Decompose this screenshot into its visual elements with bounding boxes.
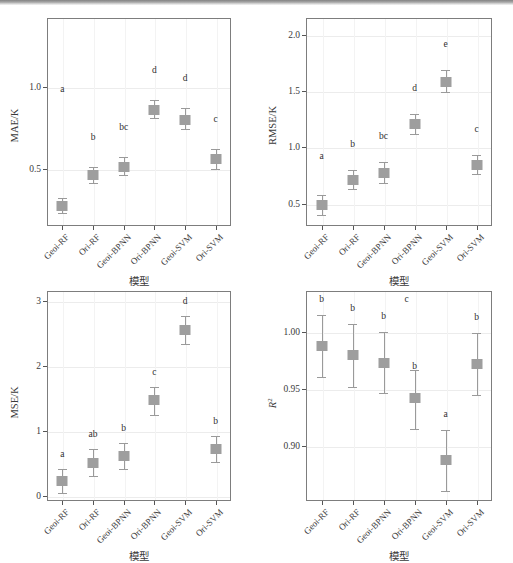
y-axis-tick-mark — [302, 389, 306, 390]
y-axis-tick-label: 1.0 — [7, 82, 41, 92]
error-bar-cap-upper — [379, 332, 388, 333]
error-bar-cap-upper — [119, 157, 128, 158]
y-axis-tick-mark — [302, 147, 306, 148]
significance-letter: b — [474, 312, 479, 322]
gridline-y — [307, 447, 491, 448]
y-axis-tick-mark — [302, 332, 306, 333]
gridline-y — [48, 302, 230, 303]
gridline-x — [478, 19, 479, 225]
x-axis-title: 模型 — [306, 548, 492, 563]
error-bar-cap-lower — [472, 395, 481, 396]
data-point-marker — [378, 168, 389, 178]
significance-letter: bc — [379, 131, 388, 141]
data-point-marker — [471, 160, 482, 170]
y-axis-tick-label: 2.0 — [266, 30, 300, 40]
error-bar-cap-upper — [89, 167, 98, 168]
x-axis-title: 模型 — [47, 548, 231, 563]
gridline-y — [48, 367, 230, 368]
x-axis-tick-mark — [124, 226, 125, 230]
gridline-y — [307, 92, 491, 93]
data-point-marker — [409, 119, 420, 129]
plot-area-mae — [47, 18, 231, 226]
gridline-x — [94, 292, 95, 500]
y-axis-tick-mark — [302, 446, 306, 447]
error-bar-cap-lower — [379, 183, 388, 184]
y-axis-title: R2 — [266, 373, 279, 433]
data-point-marker — [149, 395, 160, 405]
data-point-marker — [57, 201, 68, 211]
gridline-y — [307, 205, 491, 206]
error-bar-cap-upper — [379, 162, 388, 163]
x-axis-tick-mark — [446, 501, 447, 505]
y-axis-tick-label: 3 — [7, 296, 41, 306]
significance-letter: d — [152, 65, 157, 75]
data-point-marker — [378, 358, 389, 368]
data-point-marker — [88, 170, 99, 180]
significance-letter: a — [60, 84, 64, 94]
error-bar-cap-upper — [317, 195, 326, 196]
error-bar-cap-lower — [58, 213, 67, 214]
error-bar-cap-lower — [472, 174, 481, 175]
error-bar-cap-lower — [348, 387, 357, 388]
x-axis-tick-mark — [353, 501, 354, 505]
error-bar-cap-lower — [119, 175, 128, 176]
x-axis-tick-mark — [62, 226, 63, 230]
error-bar-cap-lower — [441, 92, 450, 93]
gridline-y — [48, 170, 230, 171]
panel-mae: 0.51.0Geoi-RFOri-RFGeoi-BPNNOri-BPNNGeoi… — [0, 0, 256, 279]
x-axis-tick-mark — [93, 501, 94, 505]
significance-letter-extra: c — [404, 294, 408, 304]
data-point-marker — [118, 451, 129, 461]
error-bar-cap-upper — [89, 449, 98, 450]
y-axis-tick-mark — [43, 87, 47, 88]
gridline-x — [385, 19, 386, 225]
gridline-x — [155, 19, 156, 225]
data-point-marker — [409, 393, 420, 403]
error-bar-cap-upper — [348, 324, 357, 325]
y-axis-tick-label: 0.5 — [7, 164, 41, 174]
significance-letter: c — [474, 124, 478, 134]
error-bar-cap-lower — [119, 469, 128, 470]
significance-letter: a — [60, 449, 64, 459]
gridline-y — [48, 88, 230, 89]
significance-letter: b — [121, 423, 126, 433]
y-axis-tick-mark — [302, 35, 306, 36]
y-axis-tick-label: 0 — [7, 491, 41, 501]
significance-letter: b — [350, 303, 355, 313]
x-axis-tick-mark — [477, 226, 478, 230]
x-axis-tick-mark — [62, 501, 63, 505]
gridline-y — [48, 497, 230, 498]
x-axis-tick-mark — [446, 226, 447, 230]
significance-letter: b — [213, 416, 218, 426]
data-point-marker — [118, 162, 129, 172]
gridline-y — [307, 333, 491, 334]
data-point-marker — [440, 455, 451, 465]
x-axis-tick-mark — [415, 226, 416, 230]
error-bar-cap-lower — [410, 134, 419, 135]
error-bar-cap-upper — [348, 170, 357, 171]
gridline-y — [307, 148, 491, 149]
data-point-marker — [180, 115, 191, 125]
x-axis-tick-mark — [322, 501, 323, 505]
significance-letter: b — [381, 311, 386, 321]
gridline-x — [323, 292, 324, 500]
error-bar-cap-lower — [181, 129, 190, 130]
error-bar-cap-lower — [150, 415, 159, 416]
data-point-marker — [471, 359, 482, 369]
x-axis-tick-mark — [353, 226, 354, 230]
gridline-x — [63, 19, 64, 225]
x-axis-tick-mark — [93, 226, 94, 230]
data-point-marker — [347, 350, 358, 360]
error-bar-cap-lower — [317, 215, 326, 216]
x-axis-tick-mark — [322, 226, 323, 230]
x-axis-tick-mark — [216, 226, 217, 230]
data-point-marker — [316, 200, 327, 210]
gridline-x — [385, 292, 386, 500]
error-bar-cap-lower — [58, 493, 67, 494]
error-bar-cap-upper — [150, 100, 159, 101]
data-point-marker — [57, 476, 68, 486]
error-bar-cap-upper — [58, 469, 67, 470]
data-point-marker — [88, 458, 99, 468]
y-axis-tick-mark — [43, 496, 47, 497]
significance-letter: b — [350, 139, 355, 149]
